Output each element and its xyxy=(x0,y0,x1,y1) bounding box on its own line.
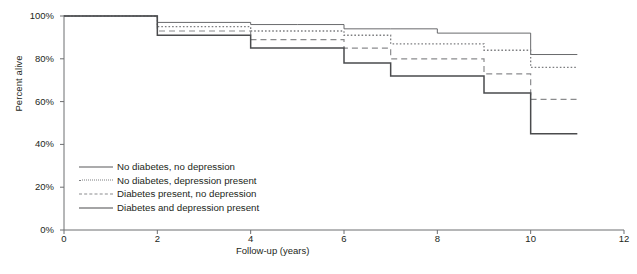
legend-item-label: No diabetes, no depression xyxy=(114,161,235,172)
x-tick-label: 8 xyxy=(422,233,452,244)
y-tick-label: 60% xyxy=(14,96,54,107)
x-axis-label: Follow-up (years) xyxy=(236,245,309,256)
series-line xyxy=(64,16,577,99)
legend-item-label: No diabetes, depression present xyxy=(114,175,256,186)
x-tick-label: 10 xyxy=(516,233,546,244)
x-tick-label: 0 xyxy=(49,233,79,244)
survival-chart: Percent alive 0%20%40%60%80%100% 0246810… xyxy=(0,0,637,274)
legend-line-swatch xyxy=(78,202,114,214)
legend-item: Diabetes and depression present xyxy=(78,201,259,215)
legend-item: No diabetes, no depression xyxy=(78,160,259,174)
series-line xyxy=(64,16,577,67)
y-tick-label: 0% xyxy=(14,224,54,235)
y-tick-label: 100% xyxy=(14,10,54,21)
x-tick-label: 6 xyxy=(329,233,359,244)
y-tick-label: 20% xyxy=(14,181,54,192)
series-line xyxy=(64,16,577,134)
legend-line-swatch xyxy=(78,174,114,186)
y-tick-label: 40% xyxy=(14,138,54,149)
x-tick-label: 2 xyxy=(142,233,172,244)
legend-item: No diabetes, depression present xyxy=(78,174,259,188)
legend-line-swatch xyxy=(78,161,114,173)
legend-item: Diabetes present, no depression xyxy=(78,187,259,201)
chart-legend: No diabetes, no depressionNo diabetes, d… xyxy=(78,160,259,214)
legend-item-label: Diabetes present, no depression xyxy=(114,188,256,199)
legend-item-label: Diabetes and depression present xyxy=(114,202,259,213)
y-tick-label: 80% xyxy=(14,53,54,64)
x-tick-label: 12 xyxy=(609,233,637,244)
legend-line-swatch xyxy=(78,188,114,200)
x-tick-label: 4 xyxy=(236,233,266,244)
